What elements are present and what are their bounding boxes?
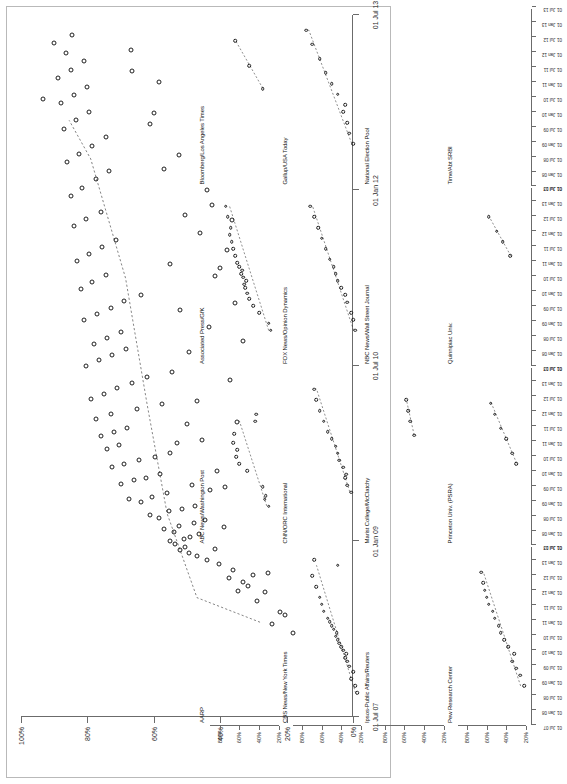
facet-x-tick-label: 01 Jan 12: [542, 231, 562, 236]
facet-title: Princeton Univ. (PSRA): [447, 483, 453, 543]
facet-x-tick: [532, 215, 536, 216]
facet-title: Associated Press/GfK: [199, 308, 205, 364]
facet-title: Time/Abt SRBI: [447, 146, 453, 184]
facet-x-tick: [532, 275, 536, 276]
scatter-point: [185, 421, 190, 426]
facet-y-tick: [487, 726, 488, 730]
scatter-point: [80, 185, 85, 190]
facet-title: Gallup/USA Today: [282, 138, 288, 185]
facet-x-tick: [532, 51, 536, 52]
scatter-point: [121, 299, 126, 304]
facet-y-tick-label: 80%: [217, 732, 223, 755]
scatter-point: [178, 307, 183, 312]
facet-title: AARP: [199, 707, 205, 723]
facet-cell: Gallup/USA Today: [281, 7, 364, 187]
scatter-point: [88, 397, 93, 402]
scatter-point: [116, 442, 121, 447]
facet-cell: NBC News/Wall Street Journal: [363, 187, 446, 367]
scatter-point: [130, 69, 135, 74]
facet-x-tick-label: 01 Jan 10: [542, 112, 562, 117]
facet-cell: Associated Press/GfK: [198, 187, 281, 367]
facet-x-tick-label: 01 Jul 09: [543, 127, 562, 132]
facet-cell: National Election Pool: [363, 7, 446, 187]
facet-x-tick: [532, 21, 536, 22]
scatter-point: [121, 461, 126, 466]
facet-x-tick: [532, 81, 536, 82]
facet-x-tick: [532, 395, 536, 396]
facet-trend-line: [210, 368, 279, 546]
y-tick: [21, 717, 22, 723]
facet-x-tick: [532, 500, 536, 501]
facet-x-tick-label: 01 Jul 12: [543, 396, 562, 401]
facet-x-tick-label: 01 Jul 11: [544, 246, 562, 251]
y-tick-label: 60%: [150, 727, 157, 765]
facet-y-tick-label: 80%: [464, 732, 470, 755]
facet-x-tick-label: 01 Jul 07: [543, 546, 562, 551]
scatter-point: [73, 118, 78, 123]
scatter-point: [62, 126, 67, 131]
facet-plot-area: [293, 548, 362, 726]
facet-x-tick-label: 01 Jul 07: [543, 725, 562, 730]
facet-plot-area: [458, 548, 527, 726]
facet-y-tick-label: 60%: [401, 732, 407, 755]
facet-x-tick: [532, 66, 536, 67]
facet-x-tick: [532, 305, 536, 306]
facet-y-tick: [322, 726, 323, 730]
facet-x-tick-label: 01 Jan 09: [542, 680, 562, 685]
scatter-point: [82, 318, 87, 323]
facet-title: Quinnipiac Univ.: [447, 322, 453, 364]
scatter-point: [55, 76, 60, 81]
facet-x-tick-label: 01 Jul 12: [543, 575, 562, 580]
scatter-point: [170, 369, 175, 374]
scatter-point: [186, 349, 191, 354]
facet-y-tick-label: 20%: [523, 732, 529, 755]
scatter-point: [168, 451, 173, 456]
facet-x-tick-label: 01 Jul 10: [543, 456, 562, 461]
facet-x-tick-label: 01 Jan 11: [542, 620, 562, 625]
facet-plot-area: [375, 548, 444, 726]
facet-y-tick: [341, 726, 342, 730]
facet-y-tick-label: 60%: [319, 732, 325, 755]
facet-title: CNN/ORC International: [282, 483, 288, 544]
scatter-point: [70, 32, 75, 37]
facet-y-tick-label: 40%: [503, 732, 509, 755]
facet-x-tick-label: 01 Jul 11: [544, 605, 562, 610]
scatter-point: [77, 152, 82, 157]
scatter-point: [118, 481, 123, 486]
facet-x-tick-label: 01 Jul 10: [543, 276, 562, 281]
facet-x-tick: [532, 320, 536, 321]
scatter-point: [176, 524, 181, 529]
scatter-point: [65, 160, 70, 165]
scatter-point: [52, 41, 57, 46]
facet-x-tick-label: 01 Jan 08: [542, 351, 562, 356]
scatter-point: [171, 529, 176, 534]
facet-y-tick-label: 80%: [299, 732, 305, 755]
scatter-point: [87, 251, 92, 256]
facet-x-tick-label: 01 Jan 13: [542, 201, 562, 206]
facet-y-tick: [239, 726, 240, 730]
scatter-point: [176, 153, 181, 158]
scatter-point: [118, 330, 123, 335]
facet-title: Marist College/McClatchy: [364, 478, 370, 544]
facet-x-tick: [532, 724, 536, 725]
scatter-point: [165, 491, 170, 496]
facet-title: CBS News/New York Times: [282, 652, 288, 723]
scatter-point: [131, 478, 136, 483]
facet-x-tick: [532, 589, 536, 590]
scatter-point: [160, 401, 165, 406]
scatter-point: [166, 509, 171, 514]
facet-x-tick-label: 01 Jan 10: [542, 291, 562, 296]
facet-x-tick-label: 01 Jan 10: [542, 650, 562, 655]
facet-y-tick-label: 20%: [358, 732, 364, 755]
scatter-point: [108, 411, 113, 416]
y-tick-label: 80%: [84, 727, 91, 765]
facet-x-tick-label: 01 Jan 11: [542, 82, 562, 87]
scatter-point: [175, 441, 180, 446]
facet-trend-line: [458, 548, 527, 726]
facet-x-tick-label: 01 Jul 10: [543, 97, 562, 102]
scatter-point: [186, 550, 191, 555]
facet-title: Ipsos-Public Affairs/Reuters: [364, 652, 370, 723]
facet-x-tick: [532, 604, 536, 605]
facet-x-tick: [532, 186, 536, 187]
facet-y-tick: [526, 726, 527, 730]
